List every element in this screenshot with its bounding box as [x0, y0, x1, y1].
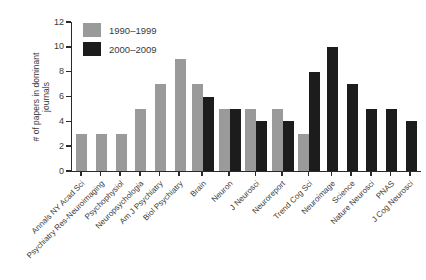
- y-tick-mark: [66, 71, 71, 73]
- bar-group: [323, 22, 343, 171]
- x-tick-label: Brain: [188, 179, 208, 199]
- bar-group: [190, 22, 217, 171]
- bar-group: [342, 22, 362, 171]
- bar-chart-figure: # of papers in dominant journals 0246810…: [0, 0, 426, 280]
- x-tick-label: PNAS: [374, 179, 396, 201]
- bar: [283, 121, 294, 171]
- x-tick-mark: [331, 172, 333, 176]
- bar-group: [401, 22, 421, 171]
- x-tick-mark: [308, 172, 310, 176]
- legend-label-1990-1999: 1990–1999: [109, 25, 157, 36]
- bar: [327, 47, 338, 171]
- bar: [366, 109, 377, 171]
- x-tick-label: Annals NY Acad Sci: [30, 179, 87, 236]
- x-tick-mark: [228, 172, 230, 176]
- bar: [192, 84, 203, 171]
- x-tick-label: Neuropsychologia: [94, 179, 146, 231]
- bar-group: [170, 22, 190, 171]
- x-tick-label: Nature Neurosci: [329, 179, 376, 226]
- bar-group: [382, 22, 402, 171]
- bar: [309, 72, 320, 171]
- bar: [298, 134, 309, 171]
- y-tick-mark: [66, 121, 71, 123]
- x-tick-mark: [80, 172, 82, 176]
- x-tick-mark: [139, 172, 141, 176]
- legend-item-1990-1999: 1990–1999: [83, 23, 157, 37]
- legend-label-2000-2009: 2000–2009: [109, 44, 157, 55]
- plot-area: 024681012 1990–1999 2000–2009: [71, 22, 421, 172]
- y-tick-mark: [66, 145, 71, 147]
- bar: [116, 134, 127, 171]
- bar-group: [216, 22, 243, 171]
- bar: [386, 109, 397, 171]
- bar: [203, 97, 214, 172]
- x-tick-label: J Neurosci: [228, 179, 261, 212]
- x-tick-mark: [159, 172, 161, 176]
- bar: [406, 121, 417, 171]
- x-tick-mark: [255, 172, 257, 176]
- x-tick-mark: [201, 172, 203, 176]
- y-axis-label: # of papers in dominant journals: [32, 22, 52, 172]
- x-tick-mark: [281, 172, 283, 176]
- legend-swatch-2000-2009: [83, 42, 101, 56]
- bar: [135, 109, 146, 171]
- bar-group: [362, 22, 382, 171]
- bar: [76, 134, 87, 171]
- y-tick-mark: [66, 96, 71, 98]
- x-tick-label: Neuron: [209, 179, 234, 204]
- x-tick-mark: [100, 172, 102, 176]
- legend-swatch-1990-1999: [83, 23, 101, 37]
- y-tick-mark: [66, 21, 71, 23]
- bar-group: [243, 22, 270, 171]
- x-tick-mark: [119, 172, 121, 176]
- bar-group: [270, 22, 297, 171]
- x-tick-label: Science: [330, 179, 356, 205]
- x-tick-label: Biol Psychiatry: [141, 179, 184, 222]
- bar: [245, 109, 256, 171]
- legend-item-2000-2009: 2000–2009: [83, 42, 157, 56]
- bar: [219, 109, 230, 171]
- x-tick-label: Am J Psychiatry: [118, 179, 165, 226]
- x-tick-label: J Cog Neurosci: [371, 179, 416, 224]
- x-tick-mark: [178, 172, 180, 176]
- y-axis-label-wrap: # of papers in dominant journals: [28, 22, 56, 171]
- x-tick-label: Trend Cog Sci: [271, 179, 313, 221]
- x-tick-label: Psychophysiol: [83, 179, 126, 222]
- x-tick-label: Psychiatry Res-Neuroimaging: [25, 179, 106, 260]
- x-tick-mark: [350, 172, 352, 176]
- legend: 1990–1999 2000–2009: [83, 23, 157, 61]
- bar: [272, 109, 283, 171]
- bar: [155, 84, 166, 171]
- bar: [96, 134, 107, 171]
- y-tick-mark: [66, 170, 71, 172]
- x-tick-mark: [390, 172, 392, 176]
- x-tick-mark: [409, 172, 411, 176]
- x-axis: Annals NY Acad SciPsychiatry Res-Neuroim…: [71, 173, 420, 278]
- x-tick-mark: [370, 172, 372, 176]
- x-tick-label: Neuroimage: [300, 179, 337, 216]
- x-tick-label: Neuroreport: [251, 179, 288, 216]
- bar: [256, 121, 267, 171]
- y-tick-mark: [66, 46, 71, 48]
- bar: [175, 59, 186, 171]
- bar: [347, 84, 358, 171]
- bar: [230, 109, 241, 171]
- bar-group: [296, 22, 323, 171]
